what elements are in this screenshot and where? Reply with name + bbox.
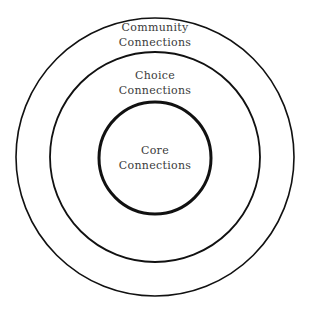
choice-label: Choice Connections bbox=[85, 68, 225, 98]
core-label: Core Connections bbox=[85, 143, 225, 173]
choice-label-line2: Connections bbox=[85, 83, 225, 98]
core-label-line1: Core bbox=[85, 143, 225, 158]
community-label-line1: Community bbox=[85, 20, 225, 35]
community-label-line2: Connections bbox=[85, 35, 225, 50]
core-label-line2: Connections bbox=[85, 158, 225, 173]
community-label: Community Connections bbox=[85, 20, 225, 50]
choice-label-line1: Choice bbox=[85, 68, 225, 83]
